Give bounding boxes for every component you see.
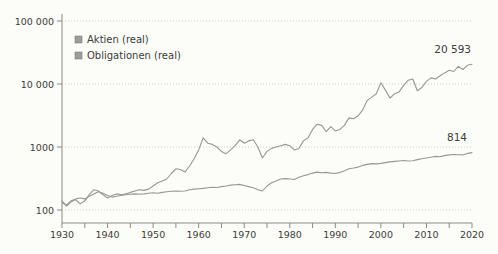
x-tick-label: 2000	[369, 229, 393, 240]
x-tick-label: 1930	[50, 229, 74, 240]
legend-marker-square	[75, 36, 82, 43]
x-tick-label: 2010	[414, 229, 438, 240]
x-tick-label: 1990	[323, 229, 347, 240]
line-chart-svg: 100100010 000100 00019301940195019601970…	[0, 0, 498, 254]
y-tick-label: 10 000	[21, 79, 54, 90]
y-tick-label: 1000	[30, 142, 54, 153]
x-tick-label: 2020	[460, 229, 484, 240]
y-tick-label: 100	[36, 205, 54, 216]
y-tick-label: 100 000	[15, 16, 54, 27]
x-tick-label: 1940	[95, 229, 119, 240]
x-tick-label: 1980	[278, 229, 302, 240]
x-tick-label: 1950	[141, 229, 165, 240]
legend-marker-square	[75, 52, 82, 59]
chart: 100100010 000100 00019301940195019601970…	[0, 0, 498, 254]
legend-label: Obligationen (real)	[87, 50, 181, 61]
obligationen-end-value-label: 814	[447, 131, 467, 143]
x-tick-label: 1960	[187, 229, 211, 240]
aktien-end-value-label: 20 593	[434, 43, 471, 55]
legend-label: Aktien (real)	[87, 34, 149, 45]
x-tick-label: 1970	[232, 229, 256, 240]
chart-background	[0, 0, 498, 254]
